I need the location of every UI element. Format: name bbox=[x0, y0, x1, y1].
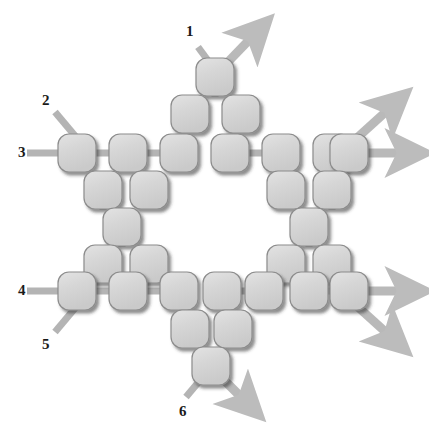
tile-connector bbox=[248, 150, 263, 157]
tile-top-row-1[interactable] bbox=[58, 134, 96, 172]
port-label-3: 3 bbox=[18, 145, 26, 160]
tile-shape bbox=[214, 310, 252, 348]
tile-shape bbox=[192, 347, 230, 385]
tile-top-row-3[interactable] bbox=[160, 134, 198, 172]
tile-shape bbox=[203, 272, 241, 310]
tile-shape bbox=[290, 272, 328, 310]
tile-right-middle[interactable] bbox=[290, 208, 328, 246]
tile-connector bbox=[95, 288, 110, 295]
tile-shape bbox=[160, 134, 198, 172]
input-line-2 bbox=[55, 112, 76, 137]
tile-shape bbox=[245, 272, 283, 310]
tile-shape bbox=[109, 134, 147, 172]
tile-top-row-4[interactable] bbox=[211, 134, 249, 172]
port-label-5: 5 bbox=[42, 337, 50, 352]
tile-bottom-row-5[interactable] bbox=[245, 272, 283, 310]
port-label-2: 2 bbox=[42, 93, 50, 108]
tile-top-apex[interactable] bbox=[196, 58, 234, 96]
tile-lower-pyramid-left[interactable] bbox=[171, 310, 209, 348]
tile-upper-left-inner-a[interactable] bbox=[84, 171, 122, 209]
tile-bottom-row-2[interactable] bbox=[109, 272, 147, 310]
tile-top-row-2[interactable] bbox=[109, 134, 147, 172]
port-label-1: 1 bbox=[186, 24, 194, 39]
tile-shape bbox=[84, 171, 122, 209]
diagram-canvas: 123456 bbox=[0, 0, 429, 445]
tile-shape bbox=[196, 58, 234, 96]
tile-shape bbox=[58, 272, 96, 310]
tile-shape bbox=[222, 95, 260, 133]
tile-upper-pyramid-right[interactable] bbox=[222, 95, 260, 133]
port-label-4: 4 bbox=[18, 283, 26, 298]
tile-bottom-row-4[interactable] bbox=[203, 272, 241, 310]
tile-shape bbox=[160, 272, 198, 310]
tile-shape bbox=[267, 171, 305, 209]
tiles-layer bbox=[58, 58, 368, 385]
tile-shape bbox=[109, 272, 147, 310]
tile-left-middle[interactable] bbox=[103, 208, 141, 246]
tile-bottom-apex[interactable] bbox=[192, 347, 230, 385]
tile-shape bbox=[313, 171, 351, 209]
tile-upper-right-inner-b[interactable] bbox=[313, 171, 351, 209]
tile-upper-pyramid-left[interactable] bbox=[171, 95, 209, 133]
tile-shape bbox=[171, 95, 209, 133]
tile-bottom-row-3[interactable] bbox=[160, 272, 198, 310]
input-line-5 bbox=[55, 307, 76, 332]
out-lower-right-diagonal bbox=[358, 307, 390, 336]
tile-connector bbox=[146, 150, 161, 157]
tile-lower-pyramid-right[interactable] bbox=[214, 310, 252, 348]
tile-shape bbox=[290, 208, 328, 246]
tile-connector bbox=[146, 288, 161, 295]
tile-top-row-5[interactable] bbox=[262, 134, 300, 172]
tile-top-row-7[interactable] bbox=[330, 134, 368, 172]
tile-shape bbox=[171, 310, 209, 348]
out-upper-right-diagonal bbox=[358, 108, 390, 137]
tile-bottom-row-1[interactable] bbox=[58, 272, 96, 310]
tile-shape bbox=[262, 134, 300, 172]
tile-bottom-row-7[interactable] bbox=[330, 272, 368, 310]
tile-shape bbox=[130, 171, 168, 209]
tile-shape bbox=[58, 134, 96, 172]
tile-shape bbox=[103, 208, 141, 246]
diagram-svg bbox=[0, 0, 429, 445]
tile-shape bbox=[330, 134, 368, 172]
tile-shape bbox=[330, 272, 368, 310]
tile-upper-left-inner-b[interactable] bbox=[130, 171, 168, 209]
tile-upper-right-inner-a[interactable] bbox=[267, 171, 305, 209]
tile-shape bbox=[211, 134, 249, 172]
tile-bottom-row-6[interactable] bbox=[290, 272, 328, 310]
tile-connector bbox=[95, 150, 110, 157]
port-label-6: 6 bbox=[179, 404, 187, 419]
